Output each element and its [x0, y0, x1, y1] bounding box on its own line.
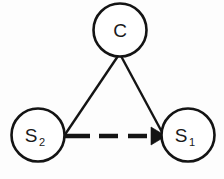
edge-c-to-s2: [64, 56, 118, 136]
edge-c-to-s1: [121, 56, 163, 134]
node-s1-circle: [162, 109, 215, 162]
node-s2-label: S: [25, 125, 38, 146]
node-s1[interactable]: S 1: [162, 109, 215, 162]
node-c-label: C: [113, 20, 127, 41]
node-s2-subscript: 2: [39, 136, 45, 148]
node-s2-circle: [12, 109, 65, 162]
node-s2[interactable]: S 2: [12, 109, 65, 162]
causal-diagram-figure: C S 2 S 1: [0, 0, 224, 179]
node-s1-label: S: [175, 125, 188, 146]
node-c[interactable]: C: [94, 4, 147, 57]
diagram-canvas: C S 2 S 1: [0, 0, 224, 179]
node-s1-subscript: 1: [189, 136, 195, 148]
